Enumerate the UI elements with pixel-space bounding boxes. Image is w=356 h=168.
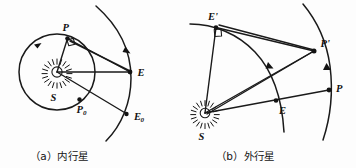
panel-a-point-E0 — [124, 112, 128, 116]
panel-a-sun-rays — [42, 59, 72, 88]
panel-b-label-S: S — [199, 131, 205, 142]
caption-panel-b: （b）外行星 — [216, 148, 274, 163]
panel-b-point-P-prime — [312, 49, 317, 54]
panel-b-line-earth-prime-to-planet-prime — [216, 28, 314, 52]
diagram-svg: P P 0 S E E 0 — [0, 0, 356, 168]
panel-a-group: P P 0 S E E 0 — [19, 6, 145, 141]
panel-b-label-P: P — [336, 83, 343, 94]
panel-b-label-E-prime: E' — [207, 11, 218, 22]
panel-b-sun-rays — [191, 101, 220, 129]
caption-panel-a: （a）内行星 — [30, 148, 88, 163]
panel-b-line-planet-prime-chord — [207, 51, 314, 114]
panel-a-point-P0 — [77, 97, 81, 101]
panel-a-label-E: E — [137, 67, 145, 78]
panel-b-label-E: E — [278, 105, 286, 116]
panel-b-point-E — [274, 98, 279, 103]
panel-b-earth-orbit-arrow — [266, 62, 274, 69]
panel-b-point-E-prime — [214, 25, 219, 30]
figure-root: P P 0 S E E 0 — [0, 0, 356, 168]
panel-b-line-sun-to-earth-prime — [205, 28, 216, 114]
panel-b-label-P-prime: P' — [321, 38, 330, 49]
panel-b-group: E' P' P E S — [190, 4, 343, 142]
panel-b-planet-orbit-arc — [303, 4, 331, 140]
panel-a-point-P — [65, 36, 70, 41]
panel-a-line-planet-sight — [70, 41, 130, 71]
panel-a-label-S: S — [51, 92, 57, 103]
panel-a-point-E — [128, 70, 133, 75]
panel-a-line-sun-to-earth-ref — [57, 72, 127, 114]
panel-a-planet-orbit-arrow — [34, 43, 42, 49]
panel-b-line-sun-to-planet — [205, 90, 329, 113]
panel-a-earth-orbit-arc — [96, 6, 131, 141]
panel-b-line-earth-prime-sight — [219, 25, 314, 50]
panel-b-point-P — [327, 88, 332, 93]
panel-a-label-E0-sub: 0 — [141, 116, 145, 124]
panel-a-label-P0-sub: 0 — [83, 109, 87, 117]
panel-a-label-P: P — [63, 22, 70, 33]
